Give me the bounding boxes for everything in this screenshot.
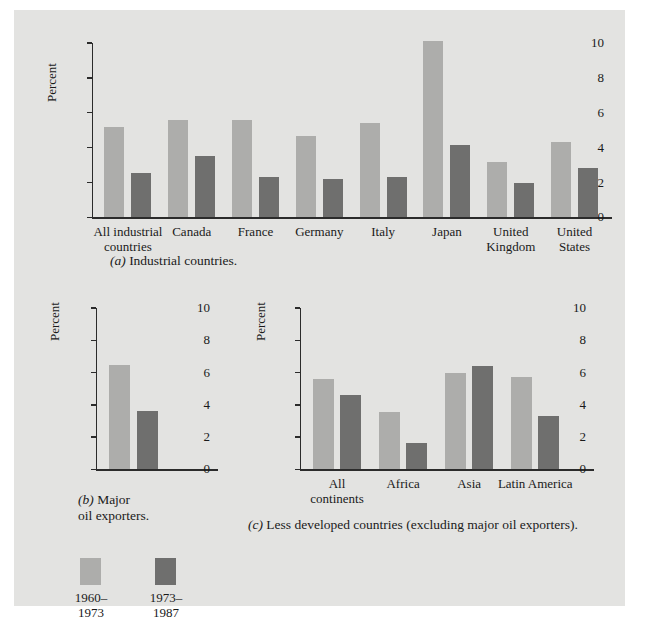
chart-panel-a: Percent 0246810All industrial countriesC… bbox=[14, 10, 625, 275]
y-axis-tick-label: 0 bbox=[598, 209, 605, 225]
bar bbox=[379, 412, 400, 469]
y-axis-tick bbox=[87, 147, 92, 148]
y-axis bbox=[92, 43, 93, 219]
x-axis-category-label: United States bbox=[515, 224, 635, 254]
y-axis-tick-label: 0 bbox=[580, 461, 587, 477]
y-axis-tick-label: 4 bbox=[580, 397, 587, 413]
y-axis bbox=[96, 308, 97, 471]
y-axis-tick-label: 8 bbox=[598, 70, 605, 86]
y-axis-tick bbox=[295, 404, 300, 405]
bar bbox=[578, 168, 598, 218]
y-axis-tick bbox=[87, 112, 92, 113]
bar bbox=[511, 377, 532, 469]
y-axis-tick-label: 4 bbox=[204, 397, 211, 413]
y-axis-tick-label: 2 bbox=[204, 429, 211, 445]
chart-panel-c: Percent 0246810All continentsAfricaAsiaL… bbox=[236, 295, 625, 525]
plot-area-c: 0246810All continentsAfricaAsiaLatin Ame… bbox=[300, 308, 594, 471]
bar bbox=[195, 156, 215, 217]
plot-area-b: 0246810 bbox=[96, 308, 218, 471]
bar bbox=[472, 366, 493, 469]
bar bbox=[313, 379, 334, 469]
y-axis-label-c: Percent bbox=[253, 302, 269, 341]
figure-panel: Percent 0246810All industrial countriesC… bbox=[14, 10, 625, 606]
legend-swatch bbox=[80, 558, 101, 585]
legend-label: 1960– 1973 bbox=[66, 590, 116, 620]
y-axis-tick bbox=[87, 217, 92, 218]
y-axis-tick bbox=[91, 404, 96, 405]
y-axis-tick bbox=[87, 182, 92, 183]
y-axis-label-b: Percent bbox=[47, 302, 63, 341]
bar bbox=[259, 177, 279, 217]
caption-text-c: Less developed countries (excluding majo… bbox=[266, 517, 578, 532]
y-axis-tick-label: 10 bbox=[197, 300, 210, 316]
bar bbox=[423, 41, 443, 217]
y-axis-tick-label: 2 bbox=[580, 429, 587, 445]
bar bbox=[323, 179, 343, 217]
bar bbox=[450, 145, 470, 217]
bar bbox=[137, 411, 158, 470]
legend-item: 1960– 1973 bbox=[80, 558, 116, 620]
bar bbox=[131, 173, 151, 217]
caption-text-a: Industrial countries. bbox=[129, 253, 237, 268]
bar bbox=[538, 416, 559, 469]
y-axis-tick-label: 2 bbox=[598, 175, 605, 191]
bar bbox=[340, 395, 361, 469]
bar bbox=[360, 123, 380, 217]
y-axis-tick bbox=[91, 340, 96, 341]
y-axis-tick-label: 6 bbox=[598, 105, 605, 121]
bar bbox=[109, 365, 130, 470]
bar bbox=[406, 443, 427, 470]
y-axis-tick-label: 4 bbox=[598, 140, 605, 156]
y-axis-tick-label: 0 bbox=[204, 461, 211, 477]
y-axis-tick-label: 6 bbox=[204, 365, 211, 381]
chart-panel-b: Percent 0246810 (b) Major oil exporters. bbox=[14, 295, 244, 525]
y-axis-tick bbox=[295, 307, 300, 308]
x-axis bbox=[96, 469, 218, 471]
y-axis-tick bbox=[295, 469, 300, 470]
bar bbox=[514, 183, 534, 217]
bar bbox=[551, 142, 571, 217]
y-axis bbox=[300, 308, 301, 471]
y-axis-tick bbox=[91, 307, 96, 308]
y-axis-tick bbox=[91, 469, 96, 470]
x-axis bbox=[92, 217, 612, 219]
y-axis-tick bbox=[295, 436, 300, 437]
y-axis-tick bbox=[91, 436, 96, 437]
bar bbox=[296, 136, 316, 217]
y-axis-tick bbox=[295, 372, 300, 373]
caption-marker-b: (b) bbox=[78, 492, 94, 507]
y-axis-tick-label: 8 bbox=[204, 332, 211, 348]
bar bbox=[168, 120, 188, 218]
y-axis-tick bbox=[87, 77, 92, 78]
plot-area-a: 0246810All industrial countriesCanadaFra… bbox=[92, 43, 612, 219]
legend-label: 1973– 1987 bbox=[141, 590, 191, 620]
y-axis-tick bbox=[295, 340, 300, 341]
y-axis-tick bbox=[91, 372, 96, 373]
x-axis bbox=[300, 469, 594, 471]
bar bbox=[445, 373, 466, 470]
y-axis-tick-label: 10 bbox=[573, 300, 586, 316]
caption-b: (b) Major oil exporters. bbox=[78, 492, 149, 524]
y-axis-tick-label: 10 bbox=[591, 35, 604, 51]
legend-item: 1973– 1987 bbox=[155, 558, 191, 620]
bar bbox=[104, 127, 124, 218]
caption-marker-c: (c) bbox=[248, 517, 263, 532]
y-axis-label-a: Percent bbox=[44, 63, 60, 102]
bar bbox=[487, 162, 507, 217]
caption-a: (a) Industrial countries. bbox=[110, 253, 237, 269]
y-axis-tick-label: 6 bbox=[580, 365, 587, 381]
x-axis-category-label: Latin America bbox=[475, 476, 595, 491]
caption-marker-a: (a) bbox=[110, 253, 126, 268]
bar bbox=[387, 177, 407, 217]
legend-swatch bbox=[155, 558, 176, 585]
bar bbox=[232, 120, 252, 218]
caption-c: (c) Less developed countries (excluding … bbox=[248, 517, 578, 533]
y-axis-tick bbox=[87, 42, 92, 43]
y-axis-tick-label: 8 bbox=[580, 332, 587, 348]
